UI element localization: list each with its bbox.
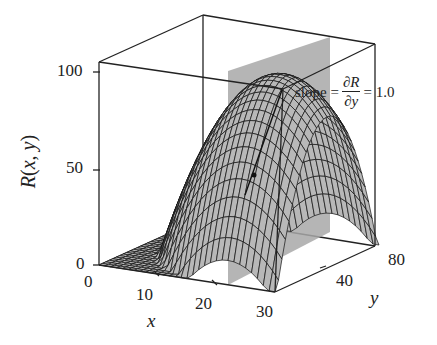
x-tick-30: 30 [256, 302, 273, 322]
x-axis-label: x [147, 310, 155, 332]
slope-prefix: slope = [295, 84, 339, 101]
slope-annotation: slope = ∂R ∂y = 1.0 [295, 75, 394, 109]
y-tick-80: 80 [388, 250, 405, 270]
x-tick-20: 20 [195, 294, 212, 314]
x-tick-10: 10 [136, 285, 153, 305]
y-tick-40: 40 [336, 271, 353, 291]
z-tick-50: 50 [66, 158, 83, 178]
z-tick-0: 0 [76, 254, 85, 274]
z-axis-label: R(x, y) [17, 122, 40, 202]
x-tick-0: 0 [84, 272, 93, 292]
y-axis-label: y [370, 287, 378, 309]
z-tick-100: 100 [57, 61, 83, 81]
partial-derivative: ∂R ∂y [342, 75, 361, 109]
tangent-point [252, 173, 257, 178]
slope-value: = 1.0 [363, 84, 394, 101]
